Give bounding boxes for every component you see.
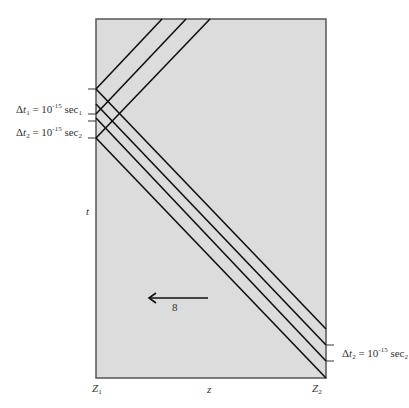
- z-axis-label: z: [207, 383, 211, 395]
- interval-label-3: Δt2 = 10-15 sec2: [342, 346, 408, 361]
- interval-label-2: Δt2 = 10-15 sec2: [16, 125, 82, 140]
- left-position-label: Z1: [92, 382, 102, 396]
- time-axis-label: t: [86, 205, 89, 217]
- arrow-label: 8: [172, 301, 178, 313]
- interval-label-1: Δt1 = 10-15 sec1: [16, 102, 82, 117]
- right-position-label: Z2: [312, 382, 322, 396]
